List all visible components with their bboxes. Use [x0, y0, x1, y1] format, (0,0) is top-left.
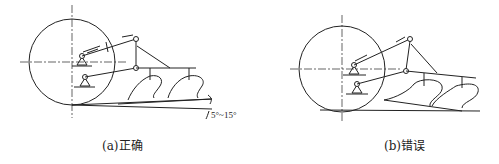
caption-b: (b)错误 — [384, 136, 425, 153]
figure-b-drawing — [290, 15, 480, 122]
angle-label: 5°~15° — [211, 110, 237, 120]
caption-a: (a)正确 — [102, 136, 143, 153]
figure-a-drawing — [20, 5, 212, 119]
